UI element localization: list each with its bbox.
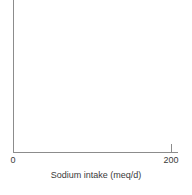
chart-figure: 0 200 Sodium intake (meq/d) xyxy=(0,0,192,195)
x-axis-tick-mark-200 xyxy=(171,144,172,152)
x-axis-line xyxy=(13,152,178,153)
x-axis-title: Sodium intake (meq/d) xyxy=(0,169,192,181)
y-axis-line xyxy=(13,0,14,153)
x-axis-tick-label-200: 200 xyxy=(163,155,178,166)
x-axis-tick-label-0: 0 xyxy=(10,155,15,166)
plot-area xyxy=(14,0,178,152)
